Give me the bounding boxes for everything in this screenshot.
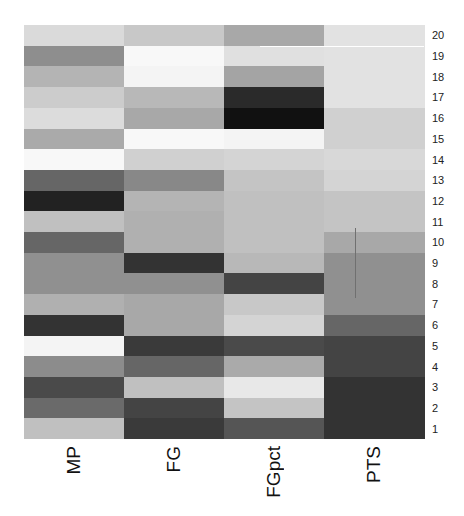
row-label: 12: [432, 195, 444, 207]
row-label: 13: [432, 174, 444, 186]
row-label: 17: [432, 91, 444, 103]
heatmap-cell: [324, 191, 425, 212]
heatmap-cell: [124, 232, 225, 253]
heatmap-cell: [24, 253, 125, 274]
heatmap-cell: [224, 129, 325, 150]
heatmap-row-13: [24, 170, 424, 191]
heatmap-cell: [24, 25, 125, 46]
row-label: 16: [432, 112, 444, 124]
heatmap-cell: [124, 356, 225, 377]
heatmap-cell: [324, 66, 425, 87]
heatmap-cell: [124, 273, 225, 294]
row-label: 9: [432, 257, 438, 269]
heatmap-cell: [124, 25, 225, 46]
heatmap-row-17: [24, 87, 424, 108]
heatmap-cell: [324, 356, 425, 377]
heatmap-row-19: [24, 46, 424, 67]
row-label: 7: [432, 298, 438, 310]
row-label: 19: [432, 50, 444, 62]
heatmap-row-6: [24, 315, 424, 336]
heatmap-cell: [124, 253, 225, 274]
heatmap-cell: [24, 170, 125, 191]
heatmap-row-18: [24, 66, 424, 87]
heatmap-cell: [24, 66, 125, 87]
heatmap-cell: [224, 149, 325, 170]
heatmap-cell: [224, 315, 325, 336]
heatmap-cell: [124, 294, 225, 315]
heatmap-cell: [224, 211, 325, 232]
row-label: 2: [432, 402, 438, 414]
heatmap-cell: [124, 191, 225, 212]
row-label: 11: [432, 216, 443, 228]
heatmap-row-10: [24, 232, 424, 253]
heatmap-row-12: [24, 191, 424, 212]
heatmap-cell: [24, 211, 125, 232]
heatmap-cell: [224, 356, 325, 377]
heatmap-row-9: [24, 253, 424, 274]
heatmap-cell: [24, 149, 125, 170]
heatmap-cell: [124, 315, 225, 336]
horizontal-line-artifact: [260, 46, 424, 47]
heatmap-cell: [124, 108, 225, 129]
heatmap-cell: [124, 149, 225, 170]
row-label: 8: [432, 278, 438, 290]
row-label: 18: [432, 71, 444, 83]
column-label: FGpct: [264, 446, 284, 498]
vertical-line-artifact: [355, 228, 356, 298]
heatmap-cell: [324, 336, 425, 357]
heatmap-cell: [124, 87, 225, 108]
heatmap-cell: [324, 377, 425, 398]
heatmap-cell: [24, 232, 125, 253]
heatmap-grid: [24, 25, 424, 439]
heatmap-cell: [124, 170, 225, 191]
heatmap-cell: [324, 170, 425, 191]
heatmap-cell: [24, 46, 125, 67]
row-label: 14: [432, 154, 444, 166]
row-label: 4: [432, 361, 438, 373]
heatmap-cell: [124, 377, 225, 398]
heatmap-cell: [224, 66, 325, 87]
heatmap-cell: [24, 191, 125, 212]
heatmap-cell: [124, 211, 225, 232]
row-label: 15: [432, 133, 444, 145]
row-label: 3: [432, 381, 438, 393]
heatmap-cell: [24, 273, 125, 294]
heatmap-row-1: [24, 418, 424, 439]
heatmap-cell: [24, 294, 125, 315]
heatmap-cell: [124, 129, 225, 150]
heatmap-cell: [224, 253, 325, 274]
heatmap-cell: [24, 377, 125, 398]
heatmap-row-11: [24, 211, 424, 232]
heatmap-cell: [224, 377, 325, 398]
heatmap-cell: [24, 398, 125, 419]
heatmap-cell: [224, 46, 325, 67]
heatmap-cell: [324, 232, 425, 253]
heatmap-row-15: [24, 129, 424, 150]
heatmap-cell: [24, 315, 125, 336]
row-label: 10: [432, 236, 444, 248]
heatmap-cell: [224, 87, 325, 108]
heatmap-cell: [224, 294, 325, 315]
heatmap-cell: [324, 25, 425, 46]
heatmap-cell: [324, 418, 425, 439]
heatmap-cell: [224, 191, 325, 212]
heatmap-cell: [324, 108, 425, 129]
heatmap-row-4: [24, 356, 424, 377]
heatmap-cell: [124, 336, 225, 357]
heatmap-cell: [24, 418, 125, 439]
heatmap-cell: [224, 273, 325, 294]
heatmap-cell: [224, 232, 325, 253]
row-label: 6: [432, 319, 438, 331]
heatmap-cell: [24, 356, 125, 377]
column-label: PTS: [364, 446, 384, 483]
heatmap-cell: [224, 398, 325, 419]
heatmap-row-14: [24, 149, 424, 170]
heatmap-cell: [324, 294, 425, 315]
heatmap-cell: [224, 336, 325, 357]
heatmap-row-2: [24, 398, 424, 419]
row-label: 5: [432, 340, 438, 352]
heatmap-cell: [24, 108, 125, 129]
heatmap-cell: [324, 315, 425, 336]
heatmap-row-7: [24, 294, 424, 315]
heatmap-cell: [324, 398, 425, 419]
